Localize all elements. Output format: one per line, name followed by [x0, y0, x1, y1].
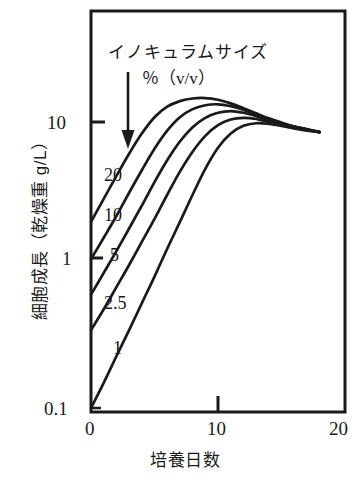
- y-tick-label-10: 10: [47, 113, 66, 132]
- curve-group: [91, 98, 320, 408]
- x-tick-label-20: 20: [329, 419, 348, 438]
- y-axis-title: 細胞成長（乾燥重 g/L）: [32, 117, 49, 337]
- legend-pointer-arrow: [122, 72, 135, 149]
- curve-label-2.5: 2.5: [104, 294, 127, 312]
- x-tick-label-10: 10: [207, 419, 226, 438]
- growth-curve-1: [91, 123, 320, 408]
- curve-label-20: 20: [104, 166, 122, 184]
- y-axis-ticks: [91, 122, 105, 408]
- curve-label-5: 5: [110, 246, 119, 264]
- x-axis-title: 培養日数: [150, 452, 220, 469]
- curve-label-1: 1: [113, 339, 122, 357]
- legend-units: ％（v/v）: [142, 70, 215, 87]
- curve-label-10: 10: [104, 206, 122, 224]
- x-tick-label-0: 0: [85, 419, 95, 438]
- y-tick-label-1: 1: [62, 249, 72, 268]
- legend-title: イノキュラムサイズ: [108, 44, 268, 61]
- chart-figure: 10 1 0.1 0 10 20 培養日数 細胞成長（乾燥重 g/L） イノキュ…: [0, 0, 364, 485]
- plot-frame: [91, 11, 345, 412]
- y-tick-label-0.1: 0.1: [44, 399, 68, 418]
